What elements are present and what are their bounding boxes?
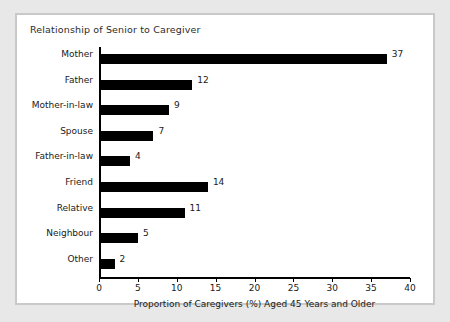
bar[interactable] bbox=[99, 208, 185, 218]
bar[interactable] bbox=[99, 182, 208, 192]
x-axis-tick bbox=[138, 278, 139, 282]
x-axis-tick-label: 40 bbox=[404, 283, 415, 293]
x-axis-tick-label: 15 bbox=[210, 283, 221, 293]
category-label: Spouse bbox=[60, 126, 93, 137]
x-axis-tick-label: 0 bbox=[96, 283, 102, 293]
category-label: Father bbox=[65, 75, 93, 86]
x-axis-tick-label: 20 bbox=[249, 283, 260, 293]
bar-value-label: 14 bbox=[213, 177, 224, 188]
bar[interactable] bbox=[99, 259, 115, 269]
x-axis-tick bbox=[410, 278, 411, 282]
chart-figure-frame: Relationship of Senior to Caregiver Moth… bbox=[15, 13, 435, 305]
bar-value-label: 11 bbox=[190, 203, 201, 214]
category-label: Neighbour bbox=[46, 228, 93, 239]
bar-value-label: 4 bbox=[135, 151, 141, 162]
x-axis-tick bbox=[216, 278, 217, 282]
bar[interactable] bbox=[99, 80, 192, 90]
x-axis-title: Proportion of Caregivers (%) Aged 45 Yea… bbox=[99, 299, 410, 309]
category-label: Mother bbox=[61, 49, 93, 60]
x-axis-tick-label: 5 bbox=[135, 283, 141, 293]
bar-value-label: 9 bbox=[174, 100, 180, 111]
bar-value-label: 5 bbox=[143, 228, 149, 239]
x-axis-tick bbox=[177, 278, 178, 282]
category-label: Friend bbox=[65, 177, 93, 188]
bar[interactable] bbox=[99, 131, 153, 141]
x-axis-tick-label: 10 bbox=[171, 283, 182, 293]
bar[interactable] bbox=[99, 233, 138, 243]
x-axis-tick bbox=[293, 278, 294, 282]
category-label: Relative bbox=[57, 203, 93, 214]
bar[interactable] bbox=[99, 105, 169, 115]
x-axis-tick-label: 30 bbox=[327, 283, 338, 293]
x-axis-tick-label: 35 bbox=[365, 283, 376, 293]
category-label: Father-in-law bbox=[35, 151, 93, 162]
bar-value-label: 7 bbox=[158, 126, 164, 137]
plot-area: Mother 37 Father 12 Mother-in-law 9 Spou… bbox=[99, 47, 410, 277]
x-axis-tick-label: 25 bbox=[288, 283, 299, 293]
bar-value-label: 2 bbox=[120, 254, 126, 265]
bar[interactable] bbox=[99, 54, 387, 64]
bar[interactable] bbox=[99, 156, 130, 166]
x-axis-tick bbox=[332, 278, 333, 282]
x-axis-tick bbox=[255, 278, 256, 282]
x-axis-tick bbox=[99, 278, 100, 282]
category-label: Other bbox=[67, 254, 93, 265]
bar-value-label: 12 bbox=[197, 75, 208, 86]
chart-title: Relationship of Senior to Caregiver bbox=[30, 24, 201, 35]
x-axis-tick bbox=[371, 278, 372, 282]
bar-value-label: 37 bbox=[392, 49, 403, 60]
category-label: Mother-in-law bbox=[32, 100, 93, 111]
